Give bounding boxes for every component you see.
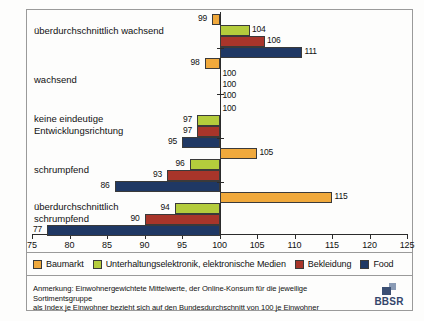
legend-swatch: [295, 260, 304, 269]
x-axis-tick-label: 120: [362, 240, 377, 250]
x-axis-tick-label: 80: [65, 240, 75, 250]
x-axis-tick-label: 105: [250, 240, 265, 250]
bar: [197, 115, 220, 126]
x-axis-tick-label: 115: [325, 240, 339, 250]
bbsr-mark-icon: [382, 283, 396, 295]
chart-footnote: Anmerkung: Einwohnergewichtete Mittelwer…: [33, 284, 363, 313]
bar: [145, 214, 220, 225]
bar-value-label: 98: [191, 57, 200, 68]
x-axis-tick-label: 95: [177, 240, 187, 250]
legend-swatch: [33, 260, 42, 269]
bar-value-label: 90: [131, 213, 140, 224]
bar-value-label: 115: [335, 191, 348, 202]
bar-value-label: 100: [223, 103, 237, 114]
bar-value-label: 100: [223, 90, 237, 101]
legend-item: Unterhaltungselektronik, elektronische M…: [93, 259, 286, 269]
legend-rule-top: [27, 252, 412, 253]
legend-label: Food: [373, 259, 393, 269]
bar-value-label: 96: [176, 158, 185, 169]
bar-value-label: 94: [161, 202, 170, 213]
x-axis-tick: [295, 234, 296, 239]
x-axis-tick-label: 125: [400, 240, 415, 250]
legend-label: Unterhaltungselektronik, elektronische M…: [106, 259, 286, 269]
bar: [182, 137, 220, 148]
legend-label: Bekleidung: [308, 259, 352, 269]
chart-figure: 7580859095100105110115120125 BaumarktUnt…: [0, 0, 424, 321]
bbsr-logo: BBSR: [366, 283, 412, 314]
x-axis-tick-label: 100: [212, 240, 227, 250]
category-label: schrumpfend: [34, 164, 169, 176]
category-label: keine eindeutige Entwicklungsrichtung: [34, 113, 169, 136]
legend-swatch: [360, 260, 369, 269]
x-axis-tick-label: 110: [287, 240, 301, 250]
x-axis-tick: [220, 234, 221, 239]
bar: [190, 159, 220, 170]
bar: [167, 170, 220, 181]
group-separator-tick: [217, 48, 224, 49]
category-label: wachsend: [34, 74, 169, 86]
bar-value-label: 97: [183, 125, 192, 136]
bar-value-label: 100: [223, 79, 237, 90]
bar-value-label: 99: [198, 13, 207, 24]
group-separator-tick: [217, 94, 224, 95]
bar: [212, 14, 220, 25]
x-axis-tick: [332, 234, 333, 239]
x-axis-tick-label: 90: [140, 240, 150, 250]
bar: [220, 148, 258, 159]
bar-value-label: 93: [153, 169, 162, 180]
bar-value-label: 106: [267, 35, 281, 46]
footnote-line-1: Anmerkung: Einwohnergewichtete Mittelwer…: [33, 284, 363, 303]
x-axis-tick: [407, 234, 408, 239]
bbsr-logo-text: BBSR: [366, 296, 412, 307]
x-axis-tick: [257, 234, 258, 239]
bar: [115, 181, 220, 192]
legend-item: Food: [360, 259, 393, 269]
legend-label: Baumarkt: [46, 259, 84, 269]
category-label: überdurchschnittlich wachsend: [34, 25, 169, 37]
legend-rule-bottom: [27, 275, 412, 276]
bar-value-label: 86: [101, 180, 110, 191]
bar: [220, 25, 250, 36]
bar-value-label: 111: [305, 46, 317, 57]
bar: [205, 58, 220, 69]
group-separator-tick: [217, 138, 224, 139]
x-axis-tick: [370, 234, 371, 239]
bar-value-label: 100: [223, 68, 237, 79]
bar: [197, 126, 220, 137]
bar-value-label: 105: [260, 147, 274, 158]
chart-legend: BaumarktUnterhaltungselektronik, elektro…: [33, 256, 407, 272]
bar-value-label: 77: [33, 224, 42, 235]
legend-swatch: [93, 260, 102, 269]
legend-item: Baumarkt: [33, 259, 84, 269]
bar: [220, 47, 303, 58]
bar: [220, 192, 333, 203]
bar-value-label: 97: [183, 114, 192, 125]
bar-value-label: 104: [252, 24, 266, 35]
x-axis-tick-label: 85: [102, 240, 112, 250]
legend-item: Bekleidung: [295, 259, 352, 269]
bar: [220, 36, 265, 47]
x-axis-tick-label: 75: [27, 240, 37, 250]
bar-value-label: 95: [168, 136, 177, 147]
group-separator-tick: [217, 182, 224, 183]
footnote-line-2: als Index je Einwohner bezieht sich auf …: [33, 303, 363, 313]
bar: [47, 225, 220, 236]
bar: [175, 203, 220, 214]
